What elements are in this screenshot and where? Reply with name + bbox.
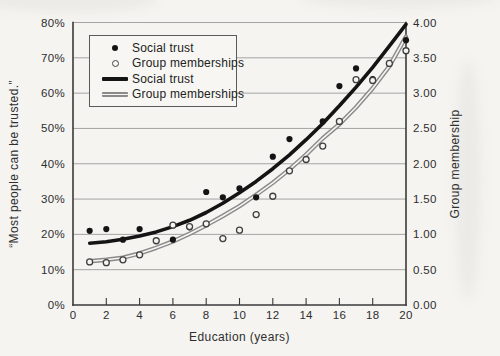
membership-data-point xyxy=(336,118,342,124)
membership-data-point xyxy=(153,238,159,244)
trust-data-point xyxy=(336,83,342,89)
legend-label: Group memberships xyxy=(132,87,244,101)
membership-data-point xyxy=(320,143,326,149)
legend-item-trust-points: Social trust xyxy=(98,40,232,55)
membership-data-point xyxy=(403,48,409,54)
y-left-tick-label: 80% xyxy=(41,17,65,29)
y-right-tick-label: 0.00 xyxy=(413,299,437,311)
legend-item-membership-points: Group memberships xyxy=(98,56,232,71)
membership-data-point xyxy=(120,257,126,263)
x-tick-label: 2 xyxy=(103,309,110,321)
black-line-icon xyxy=(98,77,132,81)
x-tick-label: 6 xyxy=(170,309,177,321)
membership-data-point xyxy=(286,168,292,174)
membership-data-point xyxy=(353,77,359,83)
trust-data-point xyxy=(170,237,176,243)
trust-data-point xyxy=(286,136,292,142)
membership-data-point xyxy=(137,252,143,258)
y-left-tick-label: 10% xyxy=(41,264,65,276)
trust-data-point xyxy=(103,226,109,232)
x-tick-label: 10 xyxy=(233,309,246,321)
membership-data-point xyxy=(386,60,392,66)
y-right-tick-label: 4.00 xyxy=(413,17,437,29)
y-axis-left-title: “Most people can be trusted.” xyxy=(7,54,21,274)
legend-label: Social trust xyxy=(132,72,194,86)
trust-data-point xyxy=(270,154,276,160)
y-axis-right-title: Group membership xyxy=(448,54,462,274)
x-tick-label: 12 xyxy=(266,309,279,321)
membership-data-point xyxy=(270,193,276,199)
y-left-tick-label: 30% xyxy=(41,193,65,205)
membership-data-point xyxy=(253,212,259,218)
trust-data-point xyxy=(203,189,209,195)
trust-data-point xyxy=(87,228,93,234)
y-left-tick-label: 0% xyxy=(48,299,65,311)
x-tick-label: 18 xyxy=(366,309,379,321)
membership-data-point xyxy=(237,227,243,233)
x-tick-label: 0 xyxy=(70,309,77,321)
trust-data-point xyxy=(353,65,359,71)
legend: Social trust Group memberships Social tr… xyxy=(89,35,237,107)
x-tick-label: 16 xyxy=(333,309,346,321)
legend-item-trust-line: Social trust xyxy=(98,71,232,86)
y-right-tick-label: 2.50 xyxy=(413,122,437,134)
membership-data-point xyxy=(87,259,93,265)
y-right-tick-label: 2.00 xyxy=(413,158,437,170)
membership-data-point xyxy=(203,221,209,227)
y-left-tick-label: 50% xyxy=(41,122,65,134)
open-circle-icon xyxy=(98,60,132,67)
x-axis-title: Education (years) xyxy=(73,330,406,344)
trust-data-point xyxy=(120,237,126,243)
membership-data-point xyxy=(187,224,193,230)
x-tick-label: 20 xyxy=(399,309,412,321)
trust-data-point xyxy=(236,185,242,191)
y-right-tick-label: 1.50 xyxy=(413,193,437,205)
y-left-tick-label: 20% xyxy=(41,228,65,240)
x-tick-label: 14 xyxy=(299,309,313,321)
membership-data-point xyxy=(103,260,109,266)
filled-dot-icon xyxy=(98,45,132,51)
legend-label: Group memberships xyxy=(132,56,244,70)
membership-data-point xyxy=(220,236,226,242)
membership-data-point xyxy=(370,77,376,83)
y-left-tick-label: 40% xyxy=(41,158,65,170)
trust-data-point xyxy=(320,118,326,124)
y-left-tick-label: 70% xyxy=(41,52,65,64)
trust-data-point xyxy=(137,226,143,232)
legend-label: Social trust xyxy=(132,41,194,55)
membership-data-point xyxy=(303,157,309,163)
x-tick-label: 8 xyxy=(203,309,210,321)
x-tick-label: 4 xyxy=(136,309,143,321)
trust-data-point xyxy=(403,37,409,43)
trust-data-point xyxy=(220,194,226,200)
gray-line-icon xyxy=(98,92,132,97)
y-right-tick-label: 3.50 xyxy=(413,52,437,64)
y-right-tick-label: 1.00 xyxy=(413,228,437,240)
y-left-tick-label: 60% xyxy=(41,87,65,99)
legend-item-membership-line: Group memberships xyxy=(98,87,232,102)
trust-data-point xyxy=(253,194,259,200)
y-right-tick-label: 3.00 xyxy=(413,87,437,99)
y-right-tick-label: 0.50 xyxy=(413,264,437,276)
membership-data-point xyxy=(170,222,176,228)
